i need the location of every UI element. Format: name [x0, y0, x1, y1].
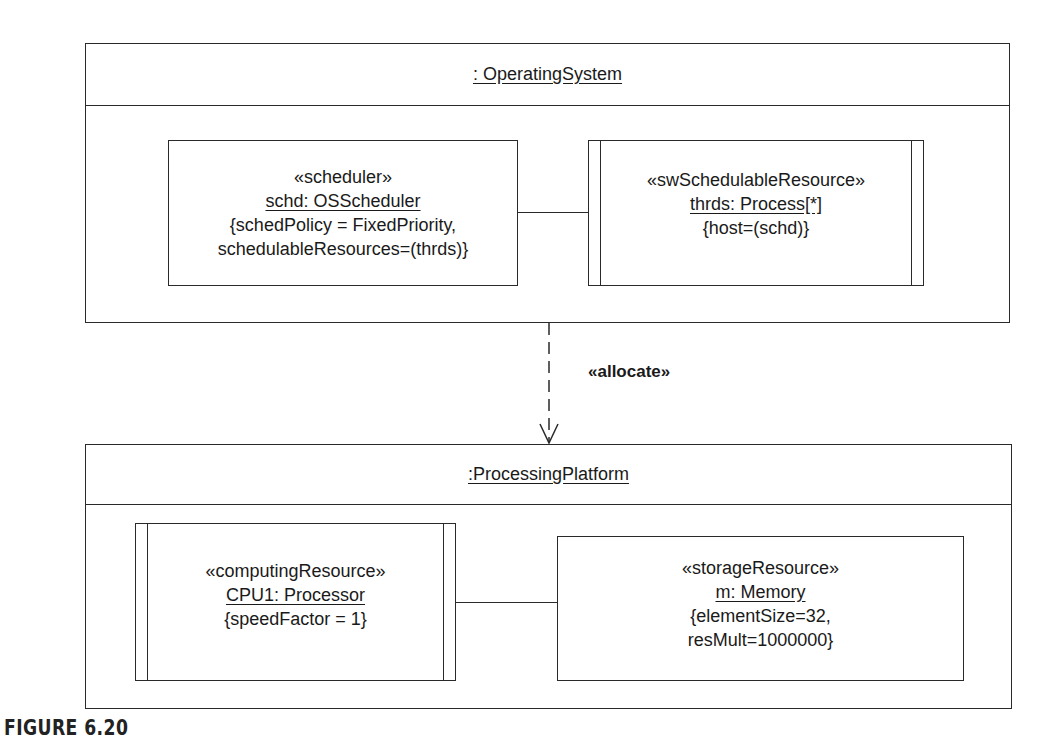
processor-name: CPU1: Processor: [226, 583, 365, 607]
processing-platform-frame-header: :ProcessingPlatform: [86, 445, 1011, 505]
memory-name: m: Memory: [716, 580, 806, 604]
processing-platform-title: :ProcessingPlatform: [468, 464, 629, 485]
memory-part: «storageResource» m: Memory {elementSize…: [557, 536, 964, 681]
memory-constraint-2: resMult=1000000}: [688, 628, 834, 652]
processor-part: «computingResource» CPU1: Processor {spe…: [135, 523, 456, 681]
active-class-bar-left: [147, 524, 148, 680]
allocate-label: «allocate»: [588, 362, 670, 382]
figure-caption: FIGURE 6.20: [4, 716, 128, 740]
memory-constraint-1: {elementSize=32,: [690, 604, 831, 628]
processor-stereotype: «computingResource»: [205, 559, 385, 583]
memory-stereotype: «storageResource»: [682, 556, 839, 580]
processor-memory-connector: [456, 602, 557, 603]
active-class-bar-right: [443, 524, 444, 680]
processor-constraint: {speedFactor = 1}: [224, 607, 367, 631]
